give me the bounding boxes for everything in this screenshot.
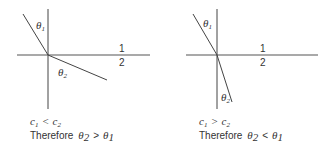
refraction-diagram: θ1 θ2 1 2 c1<c2 Thereforeθ2>θ1 θ1 θ2 1 2… <box>0 0 329 155</box>
right-conclusion: Thereforeθ2<θ1 <box>199 129 283 143</box>
left-medium-2-label: 2 <box>119 57 125 68</box>
left-diagram: θ1 θ2 1 2 c1<c2 Thereforeθ2>θ1 <box>17 9 150 143</box>
left-theta2-label: θ2 <box>58 66 67 80</box>
left-conclusion: Thereforeθ2>θ1 <box>30 129 114 143</box>
right-medium-2-label: 2 <box>260 57 266 68</box>
left-theta1-label: θ1 <box>36 19 45 33</box>
right-medium-1-label: 1 <box>260 43 266 54</box>
right-condition: c1>c2 <box>199 115 231 129</box>
right-diagram: θ1 θ2 1 2 c1>c2 Thereforeθ2<θ1 <box>186 9 318 143</box>
right-theta1-label: θ1 <box>203 17 212 31</box>
left-medium-1-label: 1 <box>119 43 125 54</box>
left-condition: c1<c2 <box>30 115 62 129</box>
left-refracted-ray <box>48 55 107 80</box>
